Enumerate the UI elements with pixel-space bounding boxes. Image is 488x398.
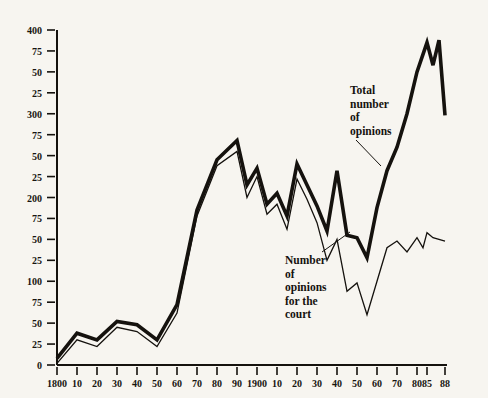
y-axis-tick-label: 200: [0, 192, 42, 203]
axes-group: [57, 30, 447, 365]
x-axis-tick-label: 20: [92, 378, 102, 389]
y-axis-tick-label: 75: [0, 129, 42, 140]
x-axis-tick-label: 80: [212, 378, 222, 389]
y-axis-tick-label: 400: [0, 25, 42, 36]
x-axis-tick-label: 85: [422, 378, 432, 389]
y-axis-tick-label: 25: [0, 255, 42, 266]
total-opinions-annotation: Total number of opinions: [350, 84, 392, 138]
x-axis-tick-label: 10: [72, 378, 82, 389]
y-axis-tick-label: 75: [0, 45, 42, 56]
x-axis-tick-label: 70: [192, 378, 202, 389]
court-opinions-annotation: Number of opinions for the court: [285, 254, 327, 322]
y-axis-tick-label: 100: [0, 276, 42, 287]
x-axis-tick-label: 80: [412, 378, 422, 389]
y-axis-ticks: [47, 30, 55, 365]
x-axis-tick-label: 30: [312, 378, 322, 389]
chart-figure: 0255075100255075200255075300255075400 18…: [0, 0, 488, 398]
x-axis-tick-label: 50: [152, 378, 162, 389]
chart-plot-area: [0, 0, 488, 398]
y-axis-tick-label: 50: [0, 234, 42, 245]
x-axis-tick-label: 1800: [47, 378, 67, 389]
court-opinions-annotation-leader-line: [322, 232, 350, 252]
x-axis-tick-label: 90: [232, 378, 242, 389]
y-axis-tick-label: 75: [0, 297, 42, 308]
y-axis-tick-label: 75: [0, 213, 42, 224]
x-axis-tick-label: 88: [440, 378, 450, 389]
x-axis-tick-label: 1900: [247, 378, 267, 389]
x-axis-tick-label: 70: [392, 378, 402, 389]
x-axis-tick-label: 30: [112, 378, 122, 389]
x-axis-tick-label: 60: [372, 378, 382, 389]
y-axis-tick-label: 50: [0, 150, 42, 161]
y-axis-tick-label: 300: [0, 108, 42, 119]
x-axis-tick-label: 20: [292, 378, 302, 389]
y-axis-tick-label: 25: [0, 339, 42, 350]
x-axis-tick-label: 10: [272, 378, 282, 389]
x-axis-tick-label: 40: [132, 378, 142, 389]
series-line-court-opinions: [57, 151, 445, 363]
y-axis-tick-label: 25: [0, 87, 42, 98]
x-axis-tick-label: 40: [332, 378, 342, 389]
total-opinions-annotation-leader-line: [356, 140, 381, 166]
x-axis-ticks: [57, 367, 445, 375]
x-axis-tick-label: 60: [172, 378, 182, 389]
y-axis-tick-label: 0: [0, 360, 42, 371]
y-axis-tick-label: 50: [0, 66, 42, 77]
x-axis-tick-label: 50: [352, 378, 362, 389]
y-axis-tick-label: 25: [0, 171, 42, 182]
y-axis-tick-label: 50: [0, 318, 42, 329]
